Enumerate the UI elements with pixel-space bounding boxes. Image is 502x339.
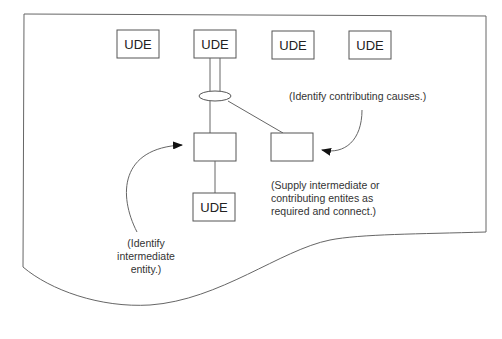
ude-box-4: UDE bbox=[349, 31, 391, 59]
page-outline bbox=[23, 14, 486, 305]
svg-text:(Supply intermediate or: (Supply intermediate or bbox=[271, 179, 380, 191]
contributing-cause-box bbox=[271, 133, 313, 161]
svg-text:intermediate: intermediate bbox=[117, 250, 175, 262]
svg-text:UDE: UDE bbox=[200, 200, 228, 215]
arrow-to-intermediate-entity bbox=[126, 145, 182, 232]
svg-text:UDE: UDE bbox=[124, 37, 152, 52]
svg-text:(Identify: (Identify bbox=[127, 237, 165, 249]
and-connector-ellipse bbox=[199, 91, 231, 101]
note-supply: (Supply intermediate or contributing ent… bbox=[271, 179, 380, 217]
diagram-canvas: UDE UDE UDE UDE UDE (Identify contributi… bbox=[0, 0, 502, 339]
svg-text:UDE: UDE bbox=[356, 38, 384, 53]
ude-box-3: UDE bbox=[272, 31, 314, 59]
ude-box-bottom: UDE bbox=[193, 193, 235, 221]
ude-box-1: UDE bbox=[117, 30, 159, 58]
svg-text:contributing entites as: contributing entites as bbox=[271, 192, 373, 204]
note-intermediate: (Identify intermediate entity.) bbox=[117, 237, 175, 275]
svg-text:UDE: UDE bbox=[201, 37, 229, 52]
arrow-to-contributing-cause bbox=[322, 110, 362, 151]
svg-text:entity.): entity.) bbox=[131, 263, 162, 275]
svg-text:required and connect.): required and connect.) bbox=[271, 205, 376, 217]
svg-text:UDE: UDE bbox=[279, 38, 307, 53]
ude-box-2: UDE bbox=[194, 30, 236, 58]
intermediate-entity-box bbox=[194, 133, 236, 161]
note-contributing-causes: (Identify contributing causes.) bbox=[289, 90, 426, 102]
